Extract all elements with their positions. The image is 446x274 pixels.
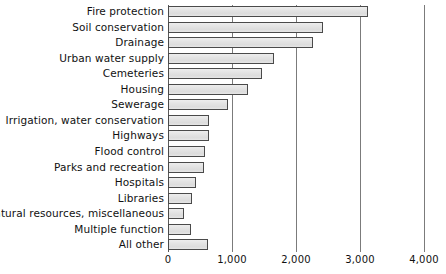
bar-row: Multiple function xyxy=(0,223,446,239)
bar-row: Irrigation, water conservation xyxy=(0,114,446,130)
bar xyxy=(168,99,228,110)
category-label: Soil conservation xyxy=(72,21,164,34)
category-label: All other xyxy=(119,238,164,251)
x-tick-label: 0 xyxy=(165,254,172,266)
bar-row: Hospitals xyxy=(0,176,446,192)
bar-row: Cemeteries xyxy=(0,67,446,83)
bar xyxy=(168,6,368,17)
bar xyxy=(168,68,262,79)
category-label: Highways xyxy=(112,129,164,142)
bar xyxy=(168,146,205,157)
bar-row: Fire protection xyxy=(0,5,446,21)
category-label: Sewerage xyxy=(111,98,164,111)
category-label: Housing xyxy=(121,83,164,96)
bar-row: Drainage xyxy=(0,36,446,52)
bar xyxy=(168,177,196,188)
x-tick-label: 4,000 xyxy=(409,254,439,266)
bar-row: Urban water supply xyxy=(0,52,446,68)
bar xyxy=(168,37,313,48)
bar-row: All other xyxy=(0,238,446,254)
bar xyxy=(168,115,209,126)
bar xyxy=(168,239,208,250)
category-label: Flood control xyxy=(94,145,164,158)
bar xyxy=(168,208,184,219)
bar xyxy=(168,224,191,235)
bar-row: Soil conservation xyxy=(0,21,446,37)
category-label: Libraries xyxy=(118,192,164,205)
bar-rows: Fire protectionSoil conservationDrainage… xyxy=(0,0,446,274)
category-label: Irrigation, water conservation xyxy=(6,114,164,127)
x-tick-label: 3,000 xyxy=(345,254,375,266)
bar xyxy=(168,84,248,95)
x-tick-label: 1,000 xyxy=(217,254,247,266)
category-label: Fire protection xyxy=(87,5,164,18)
category-label: Cemeteries xyxy=(103,67,164,80)
bar-row: Libraries xyxy=(0,192,446,208)
bar-row: Highways xyxy=(0,129,446,145)
bar-row: Natural resources, miscellaneous xyxy=(0,207,446,223)
horizontal-bar-chart: Fire protectionSoil conservationDrainage… xyxy=(0,0,446,274)
x-tick-label: 2,000 xyxy=(281,254,311,266)
bar-row: Parks and recreation xyxy=(0,161,446,177)
bar xyxy=(168,22,323,33)
bar xyxy=(168,53,274,64)
category-label: Multiple function xyxy=(74,223,164,236)
bar-row: Sewerage xyxy=(0,98,446,114)
bar-row: Housing xyxy=(0,83,446,99)
category-label: Urban water supply xyxy=(59,52,164,65)
bar xyxy=(168,162,204,173)
category-label: Natural resources, miscellaneous xyxy=(0,207,164,220)
category-label: Hospitals xyxy=(115,176,164,189)
bar xyxy=(168,193,192,204)
bar-row: Flood control xyxy=(0,145,446,161)
category-label: Drainage xyxy=(115,36,164,49)
bar xyxy=(168,130,209,141)
category-label: Parks and recreation xyxy=(54,161,164,174)
